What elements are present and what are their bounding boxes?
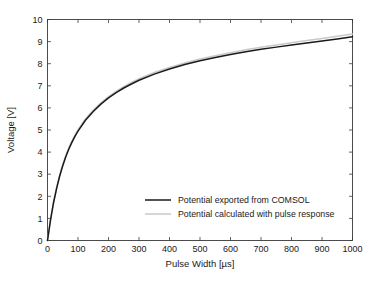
x-axis-ticks [48, 20, 353, 241]
y-tick-label: 3 [37, 169, 42, 179]
y-tick-label: 7 [37, 81, 42, 91]
y-axis-label: Voltage [V] [5, 107, 16, 153]
y-tick-label: 6 [37, 103, 42, 113]
y-axis-ticks [48, 20, 353, 241]
y-tick-label: 8 [37, 59, 42, 69]
figure-canvas: 01002003004005006007008009001000 0123456… [0, 0, 385, 284]
x-tick-label: 900 [314, 244, 329, 254]
y-tick-label: 1 [37, 214, 42, 224]
y-tick-label: 10 [32, 15, 42, 25]
x-axis-label: Pulse Width [µs] [166, 258, 235, 269]
legend-label: Potential exported from COMSOL [178, 195, 310, 205]
chart-legend: Potential exported from COMSOLPotential … [145, 195, 335, 219]
y-axis-tick-labels: 012345678910 [32, 15, 42, 246]
legend-label: Potential calculated with pulse response [178, 209, 335, 219]
chart-plot: 01002003004005006007008009001000 0123456… [0, 0, 385, 284]
x-tick-label: 0 [45, 244, 50, 254]
y-tick-label: 9 [37, 37, 42, 47]
y-tick-label: 0 [37, 236, 42, 246]
x-axis-tick-labels: 01002003004005006007008009001000 [45, 244, 363, 254]
x-tick-label: 300 [131, 244, 146, 254]
x-tick-label: 1000 [342, 244, 362, 254]
x-tick-label: 400 [162, 244, 177, 254]
y-tick-label: 4 [37, 147, 42, 157]
x-tick-label: 100 [70, 244, 85, 254]
x-tick-label: 800 [284, 244, 299, 254]
x-tick-label: 200 [101, 244, 116, 254]
x-tick-label: 600 [223, 244, 238, 254]
y-tick-label: 5 [37, 125, 42, 135]
axes-frame [48, 20, 353, 241]
x-tick-label: 500 [192, 244, 207, 254]
y-tick-label: 2 [37, 192, 42, 202]
x-tick-label: 700 [253, 244, 268, 254]
